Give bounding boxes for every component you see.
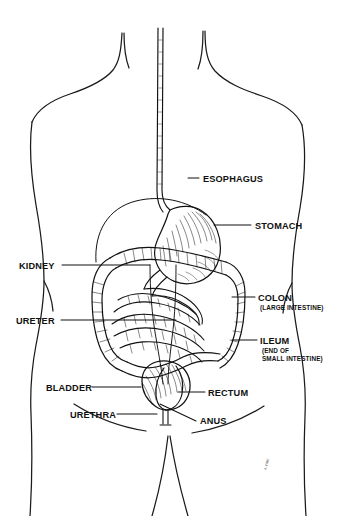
- label-rectum: RECTUM: [208, 388, 248, 398]
- sublabel-ileum-1: SMALL INTESTINE): [262, 355, 323, 363]
- label-urethra: URETHRA: [70, 410, 116, 420]
- label-stomach: STOMACH: [255, 221, 303, 231]
- label-ileum: ILEUM: [260, 336, 290, 346]
- label-anus: ANUS: [200, 416, 227, 426]
- sublabel-ileum-0: (END OF: [262, 347, 289, 355]
- label-colon: COLON: [258, 293, 292, 303]
- label-esophagus: ESOPHAGUS: [203, 174, 263, 184]
- label-kidney: KIDNEY: [19, 261, 55, 271]
- anatomy-diagram: ESOPHAGUSSTOMACHKIDNEYCOLON(LARGE INTEST…: [0, 0, 340, 516]
- label-ureter: URETER: [16, 316, 55, 326]
- label-bladder: BLADDER: [46, 383, 92, 393]
- sublabel-colon-0: (LARGE INTESTINE): [260, 304, 323, 312]
